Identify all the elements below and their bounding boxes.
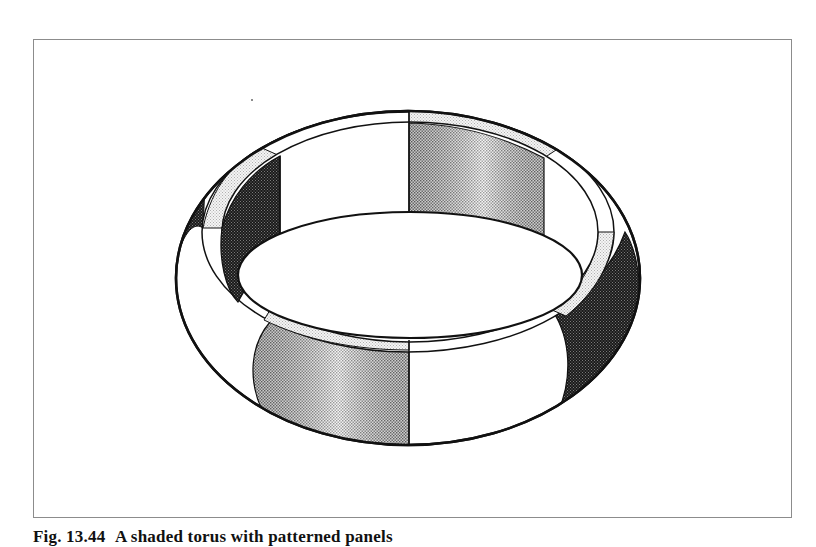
stray-dot: [251, 99, 253, 101]
figure-caption: Fig. 13.44 A shaded torus with patterned…: [33, 527, 399, 547]
torus-hole: [238, 212, 582, 338]
caption-label: Fig. 13.44: [33, 527, 105, 546]
caption-text: A shaded torus with patterned panels: [115, 527, 393, 546]
